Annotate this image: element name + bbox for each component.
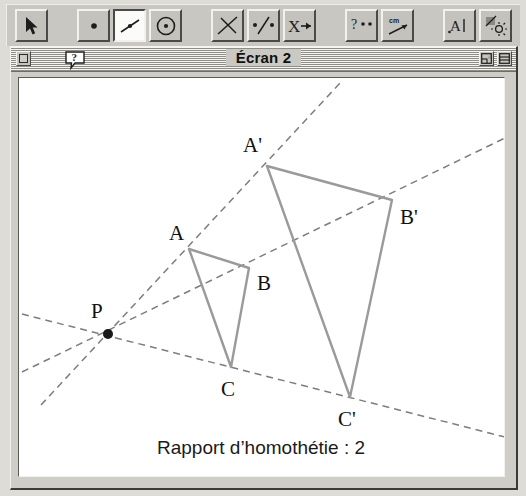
label-Aprime: A' [243, 133, 262, 157]
perpendicular-icon [215, 14, 241, 38]
tool-perpendicular-button[interactable] [211, 9, 244, 42]
tool-point-on-line-button[interactable] [247, 9, 280, 42]
drawing-tools-toolbar: X ? cm [6, 4, 520, 46]
text-label-icon: A [447, 15, 473, 37]
window-titlebar-buttons [479, 51, 512, 66]
svg-text:?: ? [351, 17, 357, 32]
tool-group-select [15, 9, 51, 42]
tool-appearance-button[interactable] [479, 9, 512, 42]
point-icon [83, 15, 105, 37]
drawing-canvas[interactable]: PABCA'B'C' Rapport d’homothétie : 2 [18, 77, 505, 477]
ratio-caption: Rapport d’homothétie : 2 [157, 437, 365, 458]
measure-ruler-icon: cm [385, 14, 411, 38]
triangles-layer [189, 166, 392, 397]
label-B: B [257, 271, 271, 295]
tool-line-button[interactable] [113, 9, 146, 42]
question-points-icon: ? [349, 15, 375, 37]
tool-group-constructions: X [211, 9, 319, 42]
appearance-icon [483, 14, 509, 38]
window-zoom-button[interactable] [479, 51, 494, 66]
center-point-P [103, 329, 113, 339]
circle-icon [154, 14, 178, 38]
screen-root: X ? cm [0, 0, 526, 496]
ray-P-B-Bprime [22, 138, 504, 372]
label-Cprime: C' [338, 407, 356, 431]
tool-point-button[interactable] [77, 9, 110, 42]
tool-pointer-button[interactable] [15, 9, 48, 42]
ray-P-C-Cprime [22, 314, 504, 437]
svg-text:X: X [288, 17, 300, 36]
document-window: ? Écran 2 [10, 46, 518, 490]
tool-query-button[interactable]: ? [345, 9, 378, 42]
label-C: C [221, 377, 235, 401]
window-list-button[interactable] [497, 51, 512, 66]
points-layer [103, 329, 113, 339]
point-labels-layer: PABCA'B'C' [91, 133, 418, 431]
zoom-box-icon [481, 53, 492, 64]
point-on-line-icon [251, 14, 277, 38]
svg-text:A: A [450, 18, 461, 34]
geometry-figure: PABCA'B'C' Rapport d’homothétie : 2 [19, 78, 504, 476]
tool-group-annotate: A [443, 9, 515, 42]
window-title: Écran 2 [11, 49, 516, 66]
homothety-rays-layer [22, 82, 504, 437]
svg-text:cm: cm [389, 17, 399, 24]
label-A: A [169, 221, 185, 245]
arrow-pointer-icon [23, 16, 41, 36]
triangle-AprimeBprimeCprime [267, 166, 392, 397]
line-segment-icon [118, 15, 142, 37]
tool-group-primitives [77, 9, 185, 42]
tool-text-button[interactable]: A [443, 9, 476, 42]
list-box-icon [499, 53, 510, 64]
tool-transform-button[interactable]: X [283, 9, 316, 42]
tool-circle-button[interactable] [149, 9, 182, 42]
label-P: P [91, 299, 103, 323]
label-Bprime: B' [400, 205, 418, 229]
x-arrow-icon: X [286, 15, 314, 37]
tool-group-measure: ? cm [345, 9, 417, 42]
window-titlebar[interactable]: ? Écran 2 [11, 47, 516, 72]
window-title-text: Écran 2 [226, 49, 302, 66]
tool-measure-button[interactable]: cm [381, 9, 414, 42]
